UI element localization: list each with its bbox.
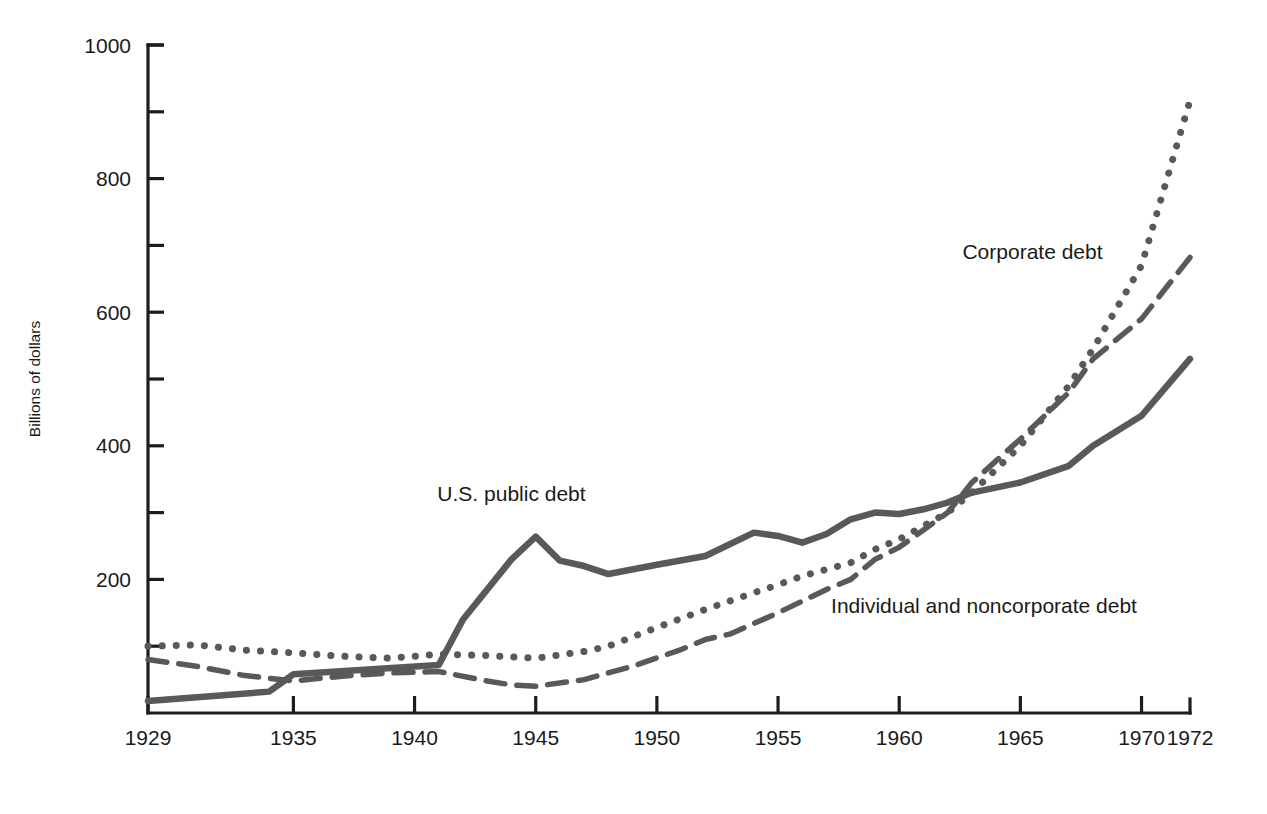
x-tick-label: 1960 bbox=[876, 726, 923, 749]
x-tick-label: 1955 bbox=[755, 726, 802, 749]
x-tick-label: 1945 bbox=[512, 726, 559, 749]
chart-background bbox=[0, 0, 1267, 814]
x-tick-label: 1970 bbox=[1118, 726, 1165, 749]
y-tick-label: 800 bbox=[96, 167, 131, 190]
x-tick-label: 1965 bbox=[997, 726, 1044, 749]
x-tick-label: 1935 bbox=[270, 726, 317, 749]
y-tick-label: 1000 bbox=[84, 34, 131, 57]
corporate-debt-label: Corporate debt bbox=[962, 240, 1102, 263]
y-tick-label: 200 bbox=[96, 568, 131, 591]
x-tick-label: 1929 bbox=[125, 726, 172, 749]
chart-figure: 2004006008001000 19291935194019451950195… bbox=[0, 0, 1267, 814]
us-public-debt-label: U.S. public debt bbox=[437, 482, 585, 505]
y-tick-label: 600 bbox=[96, 301, 131, 324]
individual-noncorporate-debt-label: Individual and noncorporate debt bbox=[831, 594, 1137, 617]
x-tick-label: 1940 bbox=[391, 726, 438, 749]
y-axis-title: Billions of dollars bbox=[26, 321, 43, 438]
debt-line-chart: 2004006008001000 19291935194019451950195… bbox=[0, 0, 1267, 814]
x-tick-label: 1972 bbox=[1167, 726, 1214, 749]
x-tick-label: 1950 bbox=[634, 726, 681, 749]
y-tick-label: 400 bbox=[96, 434, 131, 457]
